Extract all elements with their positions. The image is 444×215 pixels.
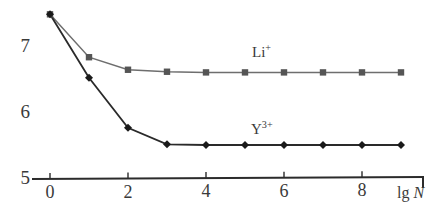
x-axis-tick-label: 8: [350, 180, 374, 201]
data-point-marker: [359, 69, 365, 75]
x-axis-title: lg N: [397, 184, 424, 202]
y-axis-tick-label: 5: [4, 167, 30, 189]
series-label-yttrium-charge: 3+: [262, 119, 273, 130]
series-label-lithium-base: Li: [252, 44, 265, 60]
y-axis-tick-label: 6: [4, 101, 30, 123]
data-point-marker: [203, 69, 209, 75]
chart-plot-area: [0, 0, 444, 215]
x-axis-tick-label: 4: [194, 181, 218, 202]
series-label-yttrium-base: Y: [251, 121, 262, 137]
chart-figure: 765 02468 lg N Li+ Y3+: [0, 0, 444, 215]
series-line-li: [50, 14, 401, 72]
series-markers: [46, 10, 405, 149]
data-point-marker: [164, 69, 170, 75]
data-point-marker: [281, 69, 287, 75]
data-point-marker: [358, 141, 366, 149]
data-point-marker: [280, 141, 288, 149]
series-lines: [50, 14, 401, 145]
data-point-marker: [163, 140, 171, 148]
y-axis-tick-label: 7: [4, 35, 30, 57]
data-point-marker: [397, 141, 405, 149]
data-point-marker: [319, 141, 327, 149]
data-point-marker: [125, 67, 131, 73]
data-point-marker: [241, 141, 249, 149]
series-label-yttrium: Y3+: [251, 119, 273, 138]
x-axis-tick-label: 2: [116, 182, 140, 203]
data-point-marker: [242, 69, 248, 75]
x-axis-title-symbol: N: [413, 184, 424, 201]
x-axis-tick-label: 0: [38, 182, 62, 203]
x-axis-title-prefix: lg: [397, 184, 409, 201]
data-point-marker: [86, 54, 92, 60]
series-line-y3: [50, 14, 401, 145]
x-axis-tick-label: 6: [272, 181, 296, 202]
series-label-lithium-charge: +: [265, 42, 271, 53]
series-label-lithium: Li+: [252, 42, 271, 61]
data-point-marker: [398, 69, 404, 75]
data-point-marker: [202, 141, 210, 149]
data-point-marker: [320, 69, 326, 75]
